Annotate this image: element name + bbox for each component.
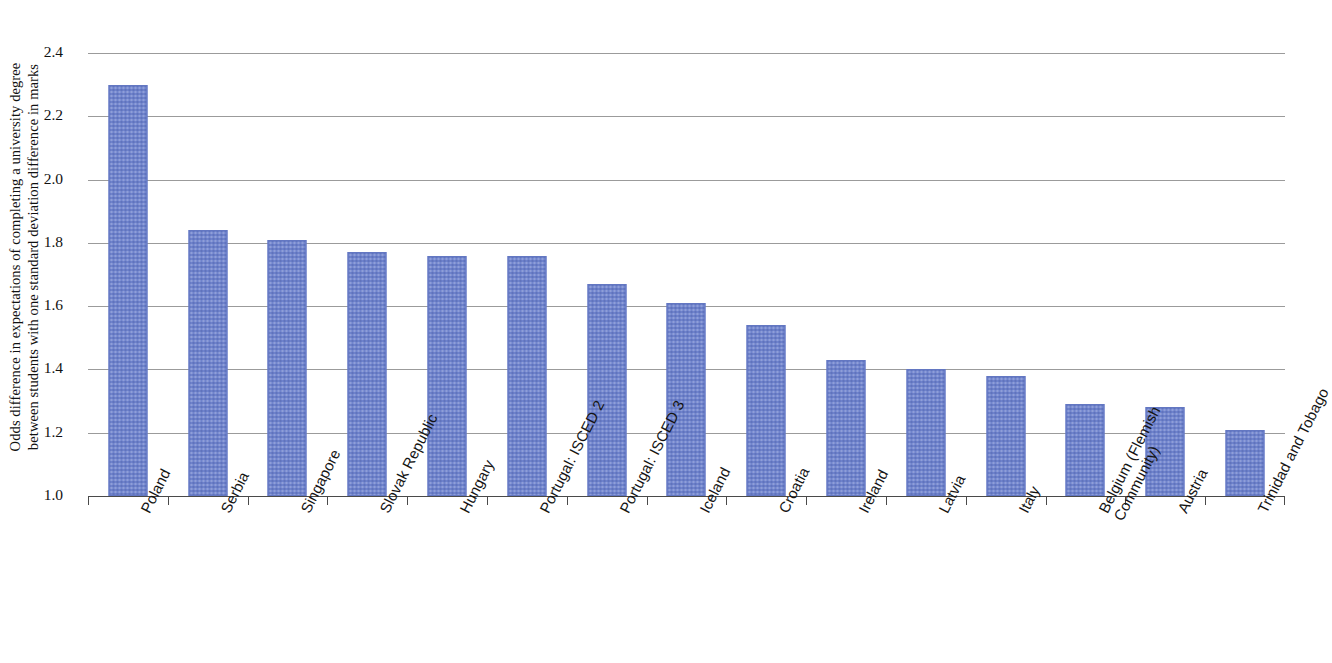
y-axis-tick-label: 1.2 [23, 423, 63, 441]
bar[interactable] [428, 256, 467, 496]
x-axis-tick [966, 496, 967, 505]
y-axis-title-line-1: Odds difference in expectations of compl… [6, 63, 24, 452]
bar[interactable] [747, 325, 786, 496]
bar-slot [1205, 53, 1285, 496]
y-axis-tick-label: 1.8 [23, 233, 63, 251]
bar[interactable] [827, 360, 866, 496]
bar[interactable] [587, 284, 626, 496]
x-axis-tick [806, 496, 807, 505]
bar-slot [1046, 53, 1126, 496]
bar-slot [806, 53, 886, 496]
bar-slot [168, 53, 248, 496]
x-axis-tick [407, 496, 408, 505]
bar[interactable] [348, 252, 387, 496]
x-axis-tick [487, 496, 488, 505]
bar-slot [248, 53, 328, 496]
bar-slot [487, 53, 567, 496]
y-axis-tick-label: 2.0 [23, 170, 63, 188]
y-axis-tick-label: 1.0 [23, 486, 63, 504]
bar-slot [726, 53, 806, 496]
bar[interactable] [268, 240, 307, 496]
bar-slot [966, 53, 1046, 496]
x-axis-tick [168, 496, 169, 505]
x-axis-tick [567, 496, 568, 505]
x-axis-tick [1205, 496, 1206, 505]
x-axis-tick-labels: PolandSerbiaSingaporeSlovak RepublicHung… [88, 508, 1285, 658]
plot-area: 2.42.22.01.81.61.41.21.0 [88, 53, 1285, 496]
y-axis-tick-label: 1.6 [23, 296, 63, 314]
x-axis-tick [1046, 496, 1047, 505]
bar-slot [886, 53, 966, 496]
bar[interactable] [1066, 404, 1105, 496]
x-axis-tick [248, 496, 249, 505]
bar[interactable] [906, 369, 945, 496]
bar[interactable] [986, 376, 1025, 496]
x-axis-tick [1284, 496, 1285, 505]
y-axis-tick-label: 1.4 [23, 359, 63, 377]
x-axis-tick [88, 496, 89, 505]
bar-series [88, 53, 1285, 496]
x-axis-tick [726, 496, 727, 505]
bar[interactable] [108, 85, 147, 496]
bar[interactable] [1226, 430, 1265, 496]
bar[interactable] [507, 256, 546, 496]
y-axis-tick-label: 2.4 [23, 43, 63, 61]
x-axis-tick [886, 496, 887, 505]
y-axis-tick-label: 2.2 [23, 106, 63, 124]
x-axis-tick [327, 496, 328, 505]
x-axis-tick [647, 496, 648, 505]
bar[interactable] [188, 230, 227, 496]
bar-slot [88, 53, 168, 496]
bar-slot [327, 53, 407, 496]
